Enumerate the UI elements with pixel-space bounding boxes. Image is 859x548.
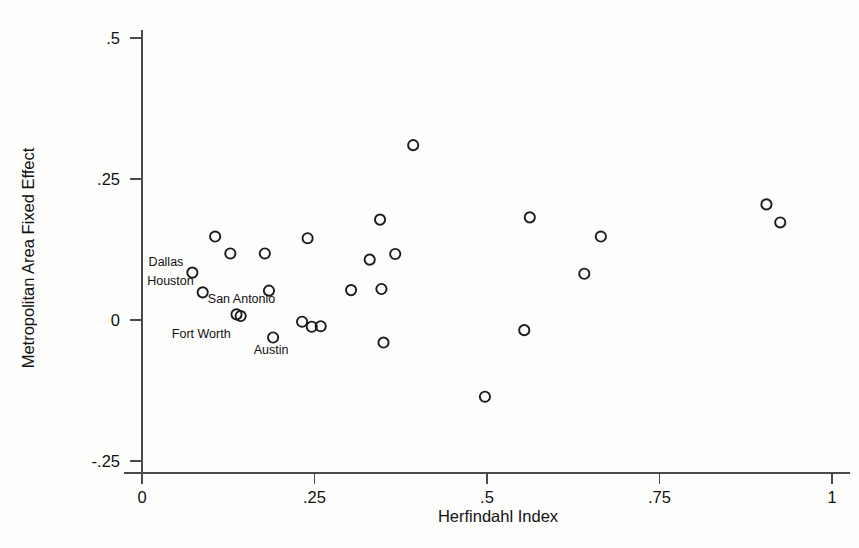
data-point-2 xyxy=(210,231,220,241)
data-point-21 xyxy=(519,325,529,335)
point-labels: DallasHoustonSan AntonioFort WorthAustin xyxy=(147,255,288,358)
axes xyxy=(124,30,850,473)
data-point-9 xyxy=(297,317,307,327)
x-tick-label-0: 0 xyxy=(137,488,146,506)
data-point-25 xyxy=(761,199,771,209)
data-point-houston xyxy=(198,287,208,297)
x-tick-label-2: .5 xyxy=(480,488,494,506)
data-point-15 xyxy=(375,215,385,225)
y-tick-label-3: .5 xyxy=(106,29,120,47)
y-tick-label-2: .25 xyxy=(97,170,120,188)
data-points xyxy=(187,140,785,402)
data-point-6 xyxy=(260,248,270,258)
data-point-24 xyxy=(596,231,606,241)
x-tick-label-4: 1 xyxy=(827,488,836,506)
data-point-14 xyxy=(365,255,375,265)
point-label-austin: Austin xyxy=(254,343,289,357)
data-point-13 xyxy=(346,285,356,295)
data-point-19 xyxy=(408,140,418,150)
y-tick-label-1: 0 xyxy=(111,311,120,329)
data-point-23 xyxy=(579,269,589,279)
point-label-houston: Houston xyxy=(147,274,194,288)
data-point-10 xyxy=(303,233,313,243)
tick-marks xyxy=(130,38,832,484)
x-tick-label-1: .25 xyxy=(303,488,326,506)
data-point-austin xyxy=(268,332,278,342)
data-point-26 xyxy=(775,217,785,227)
data-point-20 xyxy=(480,392,490,402)
y-axis-title: Metropolitan Area Fixed Effect xyxy=(19,147,37,368)
data-point-17 xyxy=(378,337,388,347)
tick-labels: -.250.25.50.25.5.751 xyxy=(92,29,837,506)
point-label-fort-worth: Fort Worth xyxy=(172,327,231,341)
data-point-3 xyxy=(225,248,235,258)
scatter-plot-figure: -.250.25.50.25.5.751 DallasHoustonSan An… xyxy=(0,0,859,548)
data-point-16 xyxy=(376,284,386,294)
data-point-22 xyxy=(525,212,535,222)
data-point-18 xyxy=(390,249,400,259)
plot-canvas: -.250.25.50.25.5.751 DallasHoustonSan An… xyxy=(0,0,859,548)
point-label-dallas: Dallas xyxy=(149,255,184,269)
y-tick-label-0: -.25 xyxy=(92,452,120,470)
x-tick-label-3: .75 xyxy=(648,488,671,506)
point-label-san-antonio: San Antonio xyxy=(208,292,275,306)
x-axis-title: Herfindahl Index xyxy=(438,507,559,525)
